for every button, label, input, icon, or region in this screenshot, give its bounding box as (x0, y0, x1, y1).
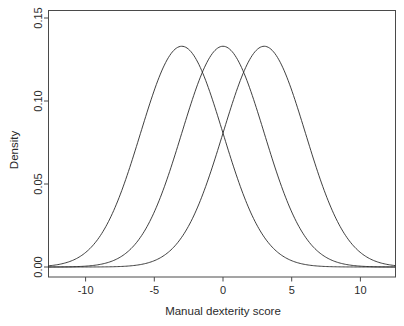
density-curve-2 (49, 46, 395, 267)
density-curves (49, 46, 395, 267)
y-tick-label-1: 0.05 (32, 173, 44, 194)
y-axis-title: Density (8, 131, 20, 170)
y-tick-label-2: 0.10 (32, 90, 44, 111)
density-plot-figure: 0.00 0.05 0.10 0.15 Density -10 -5 0 5 1… (0, 0, 404, 326)
x-axis-ticks (86, 277, 361, 282)
x-axis-tick-labels: -10 -5 0 5 10 (78, 284, 367, 296)
y-axis-tick-labels: 0.00 0.05 0.10 0.15 (32, 7, 44, 277)
x-tick-label-3: 5 (289, 284, 295, 296)
plot-canvas: 0.00 0.05 0.10 0.15 Density -10 -5 0 5 1… (0, 0, 404, 326)
y-tick-label-0: 0.00 (32, 256, 44, 277)
density-curve-3 (49, 46, 395, 267)
y-tick-label-3: 0.15 (32, 7, 44, 28)
density-curve-1 (49, 46, 395, 267)
x-tick-label-2: 0 (220, 284, 226, 296)
plot-frame (49, 11, 396, 278)
x-tick-label-4: 10 (354, 284, 366, 296)
x-tick-label-0: -10 (78, 284, 94, 296)
x-tick-label-1: -5 (149, 284, 159, 296)
y-axis-ticks (44, 18, 49, 267)
x-axis-title: Manual dexterity score (165, 305, 281, 317)
